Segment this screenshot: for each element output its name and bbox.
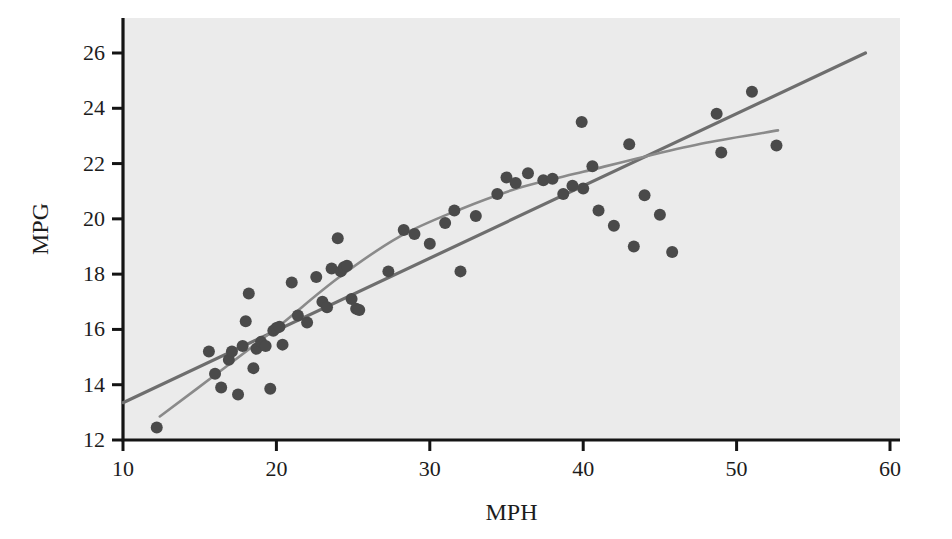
data-point [593,205,605,217]
y-tick-label: 14 [83,372,105,397]
data-point [237,340,249,352]
data-point [203,346,215,358]
data-point [247,362,259,374]
data-point [341,260,353,272]
data-point [547,173,559,185]
data-point [286,276,298,288]
data-point [209,368,221,380]
data-point [260,340,272,352]
data-point [608,220,620,232]
plot-area [123,18,900,440]
data-point [398,224,410,236]
data-point [557,188,569,200]
data-point [240,315,252,327]
x-tick-label: 30 [419,456,441,481]
data-point [215,381,227,393]
data-point [711,108,723,120]
y-axis-label: MPG [27,203,53,255]
data-point [654,209,666,221]
y-tick-label: 26 [83,40,105,65]
data-point [639,189,651,201]
data-point [277,339,289,351]
data-point [264,383,276,395]
data-point [576,116,588,128]
data-point [226,346,238,358]
y-tick-label: 18 [83,261,105,286]
x-tick-label: 40 [572,456,594,481]
plot-background [123,18,900,440]
data-point [586,160,598,172]
data-point [273,321,285,333]
data-point [382,265,394,277]
data-point [746,86,758,98]
data-point [332,232,344,244]
data-point [510,177,522,189]
data-point [232,388,244,400]
data-point [454,265,466,277]
x-tick-label: 20 [265,456,287,481]
data-point [566,180,578,192]
x-tick-label: 60 [879,456,901,481]
data-point [522,167,534,179]
data-point [470,210,482,222]
x-tick-label: 50 [726,456,748,481]
data-point [353,304,365,316]
scatter-plot: 1214161820222426102030405060 MPH MPG [0,0,952,539]
y-tick-label: 12 [83,427,105,452]
data-point [439,217,451,229]
data-point [623,138,635,150]
y-tick-label: 16 [83,316,105,341]
data-point [151,422,163,434]
y-tick-label: 22 [83,151,105,176]
data-point [448,205,460,217]
x-axis-label: MPH [485,499,537,525]
data-point [310,271,322,283]
data-point [770,140,782,152]
data-point [424,238,436,250]
data-point [301,317,313,329]
y-tick-label: 20 [83,206,105,231]
y-tick-label: 24 [83,95,105,120]
data-point [628,241,640,253]
data-point [408,228,420,240]
x-tick-label: 10 [112,456,134,481]
data-point [715,147,727,159]
data-point [491,188,503,200]
data-point [321,301,333,313]
data-point [577,182,589,194]
chart-figure: 1214161820222426102030405060 MPH MPG [0,0,952,539]
data-point [666,246,678,258]
data-point [243,287,255,299]
